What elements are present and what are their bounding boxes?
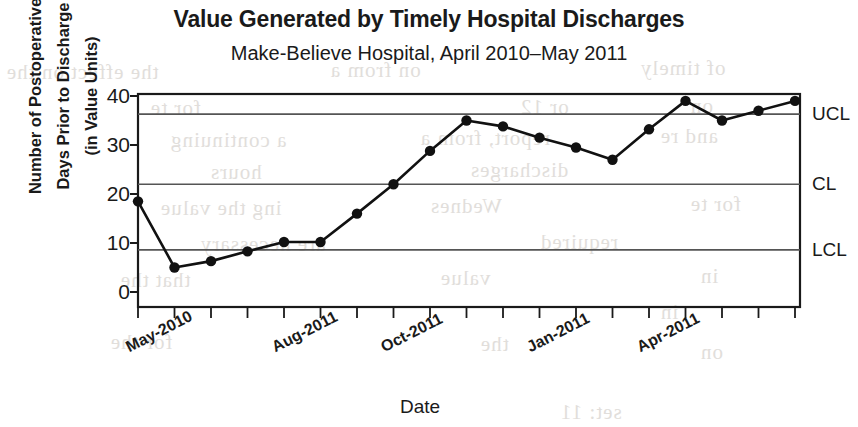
data-point-marker: [717, 115, 727, 125]
control-limit-label-ucl: UCL: [812, 103, 850, 125]
x-axis-title: Date: [330, 396, 510, 418]
data-point-marker: [206, 256, 216, 266]
data-point-marker: [680, 96, 690, 106]
control-limit-label-cl: CL: [812, 173, 836, 195]
data-point-marker: [352, 208, 362, 218]
data-point-marker: [607, 155, 617, 165]
data-point-marker: [790, 96, 800, 106]
data-point-marker: [388, 179, 398, 189]
data-point-marker: [425, 146, 435, 156]
data-point-marker: [571, 142, 581, 152]
data-point-marker: [753, 106, 763, 116]
data-point-marker: [498, 121, 508, 131]
data-point-marker: [133, 196, 143, 206]
data-point-marker: [279, 237, 289, 247]
data-point-marker: [534, 132, 544, 142]
data-point-marker: [461, 115, 471, 125]
data-point-marker: [315, 237, 325, 247]
control-limit-label-lcl: LCL: [812, 239, 847, 261]
data-point-marker: [644, 124, 654, 134]
plot-frame: [138, 94, 800, 307]
control-chart: Value Generated by Timely Hospital Disch…: [0, 0, 858, 427]
data-point-marker: [242, 246, 252, 256]
plot-area: [0, 0, 858, 427]
data-point-marker: [169, 262, 179, 272]
